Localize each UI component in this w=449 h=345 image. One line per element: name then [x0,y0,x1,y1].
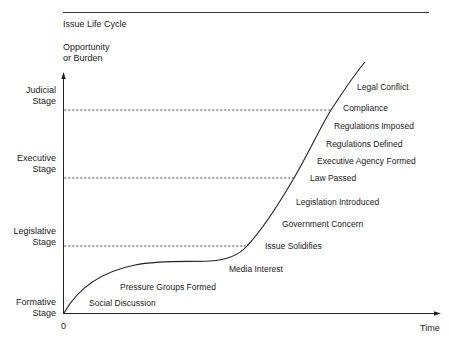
event-legislation-introduced: Legislation Introduced [296,197,379,207]
event-issue-solidifies: Issue Solidifies [265,241,322,251]
stage-label-line1: Judicial [26,85,56,96]
stage-label-line1: Formative [16,297,56,308]
origin-label: 0 [61,321,66,331]
event-law-passed: Law Passed [310,173,356,183]
stage-label-line2: Stage [13,237,56,248]
stage-label-line2: Stage [17,164,56,175]
event-government-concern: Government Concern [282,219,363,229]
event-legal-conflict: Legal Conflict [357,82,409,92]
event-social-discussion: Social Discussion [89,298,156,308]
stage-label-formative: Formative Stage [16,297,56,319]
stage-label-line1: Executive [17,153,56,164]
stage-label-line1: Legislative [13,226,56,237]
stage-label-executive: Executive Stage [17,153,56,175]
stage-label-line2: Stage [16,308,56,319]
event-compliance: Compliance [343,103,388,113]
y-axis-arrow-icon [61,72,65,79]
stage-label-legislative: Legislative Stage [13,226,56,248]
event-pressure-groups-formed: Pressure Groups Formed [120,282,216,292]
life-cycle-plot [0,0,449,345]
event-regulations-defined: Regulations Defined [326,139,403,149]
event-regulations-imposed: Regulations Imposed [334,121,414,131]
stage-label-line2: Stage [26,96,56,107]
event-media-interest: Media Interest [229,264,283,274]
stage-label-judicial: Judicial Stage [26,85,56,107]
event-executive-agency-formed: Executive Agency Formed [317,156,416,166]
issue-life-cycle-curve [64,62,365,313]
x-axis-label: Time [420,323,440,333]
x-axis-arrow-icon [434,311,441,315]
